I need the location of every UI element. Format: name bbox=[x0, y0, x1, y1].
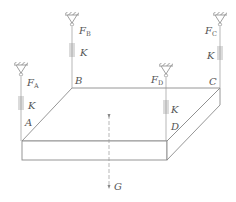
force-label-b: FB bbox=[78, 25, 91, 38]
spring-label-a: K bbox=[27, 100, 36, 111]
force-label-d: FD bbox=[150, 74, 163, 87]
diagram-canvas: FA K A FB K B FC K C FD K D G bbox=[0, 0, 236, 202]
plate bbox=[22, 88, 220, 160]
weight-label: G bbox=[114, 181, 122, 192]
corner-label-a: A bbox=[24, 117, 32, 128]
corner-label-c: C bbox=[209, 76, 217, 87]
corner-label-b: B bbox=[74, 75, 82, 86]
support-c: FC K C bbox=[204, 12, 227, 88]
force-label-c: FC bbox=[204, 25, 217, 38]
corner-label-d: D bbox=[170, 121, 179, 132]
support-b: FB K B bbox=[65, 12, 91, 88]
spring-label-c: K bbox=[206, 50, 215, 61]
spring-label-d: K bbox=[170, 104, 179, 115]
plate-spring-diagram: FA K A FB K B FC K C FD K D G bbox=[0, 0, 236, 202]
force-label-a: FA bbox=[26, 77, 39, 90]
spring-label-b: K bbox=[79, 47, 88, 58]
